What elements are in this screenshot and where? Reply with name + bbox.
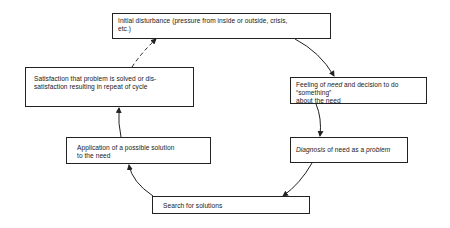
arrow-search-to-apply [129,165,153,196]
node-search-for-solutions: Search for solutions [152,196,310,214]
node-text-line: etc.) [118,25,325,33]
text: Feeling of [296,81,327,88]
arrow-diagnosis-to-search [283,163,312,196]
emphasis-text: need [327,81,342,88]
node-text-line: Diagnosis of need as a problem [296,146,402,154]
node-satisfaction: Satisfaction that problem is solved or d… [25,67,194,107]
arrow-initial-to-feeling [295,39,334,76]
arrow-satisfy-to-initial [132,39,156,67]
node-text-line: Search for solutions [163,202,304,210]
node-text-line: satisfaction resulting in repeat of cycl… [34,83,188,91]
node-text-line: about the need [296,97,421,105]
node-initial-disturbance: Initial disturbance (pressure from insid… [112,13,331,39]
node-text-line: Satisfaction that problem is solved or d… [34,75,188,83]
node-text-line: to the need [77,152,205,160]
emphasis-text: Diagnosis [296,146,325,153]
arrow-apply-to-satisfy [119,108,121,137]
node-application-of-solution: Application of a possible solution to th… [66,137,211,164]
text: of need as a [325,146,366,153]
arrow-feeling-to-diagnosis [316,104,321,136]
node-feeling-of-need: Feeling of need and decision to do “some… [290,77,427,104]
emphasis-text: problem [366,146,390,153]
node-diagnosis: Diagnosis of need as a problem [290,137,408,163]
node-text-line: Initial disturbance (pressure from insid… [118,17,325,25]
node-text-line: Application of a possible solution [77,144,205,152]
node-text-line: Feeling of need and decision to do “some… [296,81,421,97]
